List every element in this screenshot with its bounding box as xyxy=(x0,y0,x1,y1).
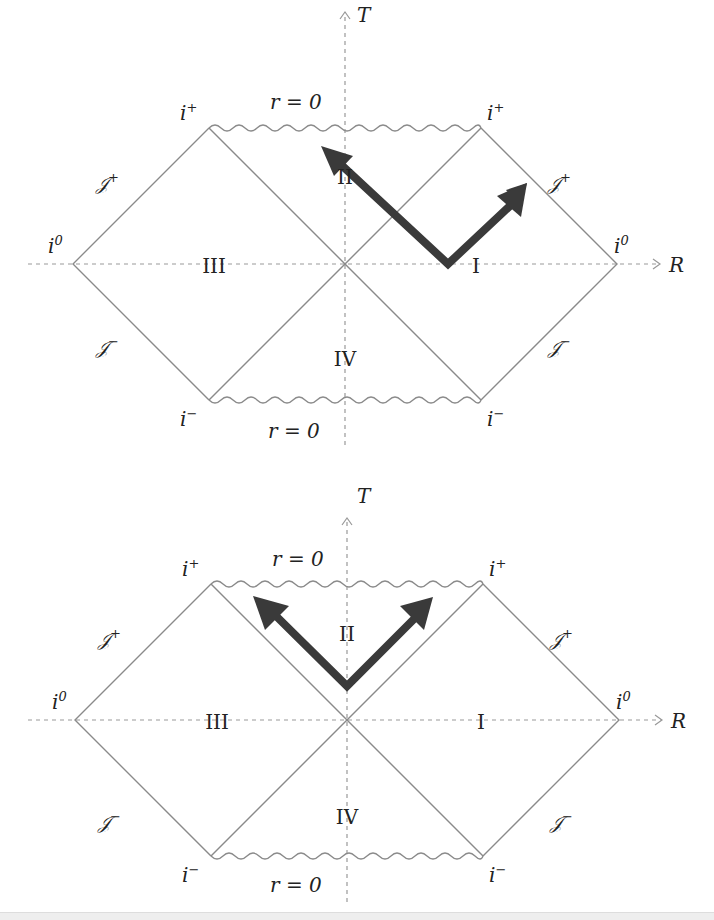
r-axis-label: R xyxy=(670,709,686,733)
region-I-label: I xyxy=(472,254,480,278)
penrose-diagram-top: T R r = 0 r = 0 i+ i+ i− i− i0 i0 𝒥+ 𝒥+ … xyxy=(28,3,684,445)
page-bottom-edge xyxy=(0,912,714,920)
i-zero-left-label: i0 xyxy=(48,233,63,258)
past-singularity-label: r = 0 xyxy=(268,419,320,443)
region-III-label: III xyxy=(205,710,229,734)
i-plus-left-label: i+ xyxy=(180,100,197,125)
scri-plus-left-label: 𝒥+ xyxy=(97,626,121,650)
future-singularity-label: r = 0 xyxy=(270,90,322,114)
penrose-diagram-bottom: T R r = 0 r = 0 i+ i+ i− i− i0 i0 𝒥+ 𝒥+ … xyxy=(28,484,686,902)
i-plus-left-label: i+ xyxy=(182,556,199,581)
future-singularity xyxy=(209,125,481,131)
scri-minus-right-label: 𝒥− xyxy=(549,809,573,833)
i-minus-left-label: i− xyxy=(180,406,197,431)
scri-minus-left-label: 𝒥− xyxy=(97,809,121,833)
i-plus-right-label: i+ xyxy=(487,100,504,125)
i-minus-right-label: i− xyxy=(489,862,506,887)
region-IV-label: IV xyxy=(334,347,357,371)
i-minus-left-label: i− xyxy=(182,862,199,887)
i-zero-left-label: i0 xyxy=(52,689,67,714)
region-IV-label: IV xyxy=(336,805,359,829)
scri-minus-right-label: 𝒥− xyxy=(547,334,571,358)
i-zero-right-label: i0 xyxy=(614,233,629,258)
i-minus-right-label: i− xyxy=(487,406,504,431)
region-II-label: II xyxy=(337,165,353,189)
scri-plus-right-label: 𝒥+ xyxy=(547,170,571,194)
past-singularity-label: r = 0 xyxy=(270,873,322,897)
i-zero-right-label: i0 xyxy=(616,689,631,714)
region-II-label: II xyxy=(339,622,355,646)
future-singularity-label: r = 0 xyxy=(272,547,324,571)
region-III-label: III xyxy=(202,254,226,278)
r-axis-label: R xyxy=(668,253,684,277)
t-axis-label: T xyxy=(357,3,372,27)
scri-plus-left-label: 𝒥+ xyxy=(95,170,119,194)
region-I-label: I xyxy=(477,710,485,734)
scri-minus-left-label: 𝒥− xyxy=(95,334,119,358)
i-plus-right-label: i+ xyxy=(489,556,506,581)
t-axis-label: T xyxy=(357,484,372,508)
scri-plus-right-label: 𝒥+ xyxy=(549,626,573,650)
worldline-arrows xyxy=(321,146,527,264)
